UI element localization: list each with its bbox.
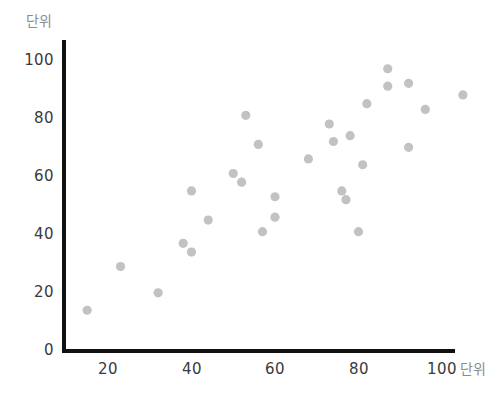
data-point	[383, 64, 392, 73]
scatter-chart: 단위 단위 100 80 60 40 20 0 20 40 60 80 100	[0, 0, 500, 397]
data-point	[404, 143, 413, 152]
data-point	[421, 105, 430, 114]
data-point	[329, 137, 338, 146]
data-point	[354, 227, 363, 236]
data-point	[237, 178, 246, 187]
data-point	[404, 79, 413, 88]
data-point	[187, 247, 196, 256]
data-point	[154, 288, 163, 297]
data-point	[304, 154, 313, 163]
data-point	[241, 111, 250, 120]
data-point	[270, 213, 279, 222]
data-point	[358, 160, 367, 169]
plot-area	[0, 0, 500, 397]
data-point	[341, 195, 350, 204]
data-point	[116, 262, 125, 271]
data-point	[346, 131, 355, 140]
data-point	[83, 306, 92, 315]
axis-lines	[62, 40, 455, 351]
data-point	[258, 227, 267, 236]
data-point	[325, 119, 334, 128]
data-point	[458, 90, 467, 99]
data-point	[383, 82, 392, 91]
data-point	[179, 239, 188, 248]
data-point-group	[83, 64, 468, 315]
data-point	[337, 186, 346, 195]
data-point	[204, 215, 213, 224]
data-point	[362, 99, 371, 108]
data-point	[254, 140, 263, 149]
data-point	[187, 186, 196, 195]
data-point	[229, 169, 238, 178]
data-point	[270, 192, 279, 201]
